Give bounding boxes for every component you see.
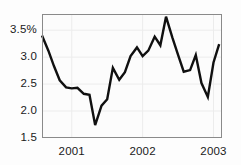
x-tick-label: 2003 (183, 146, 241, 158)
x-tick-label: 2002 (113, 146, 173, 158)
chart-container: 3.5%3.02.52.01.5 200120022003 (0, 0, 241, 165)
x-axis-tick-labels: 200120022003 (0, 0, 241, 165)
x-tick-label: 2001 (42, 146, 102, 158)
